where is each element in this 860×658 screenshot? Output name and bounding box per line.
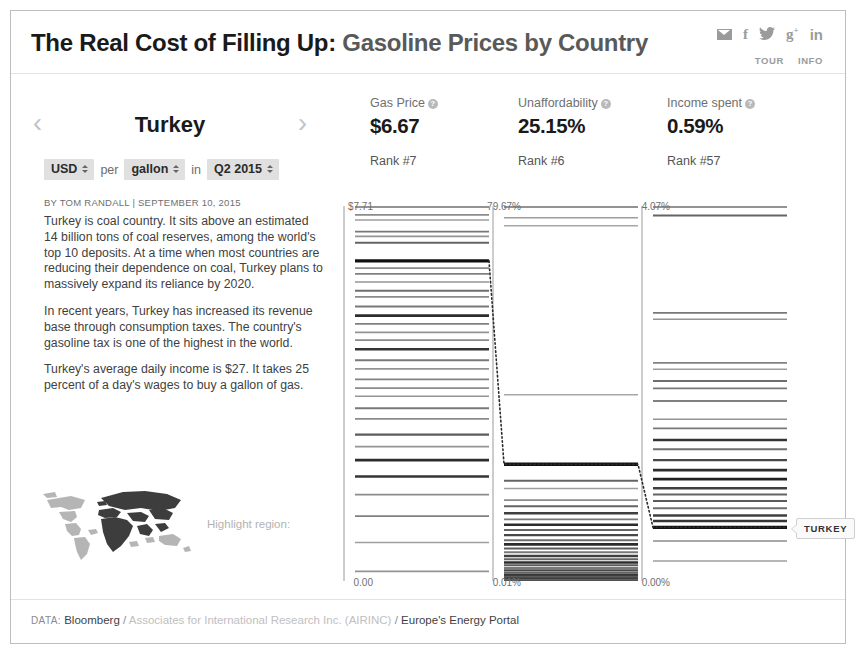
source-europes-energy-portal[interactable]: Europe's Energy Portal	[401, 614, 519, 626]
left-panel: ‹ Turkey › USD per gallon in Q2 2015 BY …	[11, 74, 329, 581]
world-map-icon	[41, 486, 201, 566]
page-title: The Real Cost of Filling Up: Gasoline Pr…	[31, 29, 648, 57]
page-title-main: The Real Cost of Filling Up:	[31, 29, 336, 56]
per-label: per	[100, 163, 118, 177]
axis-min-label: 0.00	[317, 577, 373, 588]
article-paragraph: In recent years, Turkey has increased it…	[44, 304, 324, 351]
data-sources: DATA: Bloomberg / Associates for Interna…	[31, 614, 519, 626]
period-select-value: Q2 2015	[214, 162, 262, 176]
chevron-updown-icon	[173, 165, 179, 173]
info-link[interactable]: INFO	[798, 55, 823, 66]
unit-select-value: gallon	[131, 162, 168, 176]
header-links: TOUR INFO	[755, 55, 823, 66]
axis-max-label: 4.07%	[614, 201, 670, 212]
unit-select[interactable]: gallon	[124, 159, 185, 180]
social-share-bar: f g+ in	[717, 26, 823, 42]
article-body: Turkey is coal country. It sits above an…	[44, 214, 324, 405]
twitter-icon[interactable]	[759, 27, 775, 42]
linkedin-icon[interactable]: in	[810, 27, 823, 42]
tour-link[interactable]: TOUR	[755, 55, 784, 66]
highlight-region-label: Highlight region:	[207, 518, 290, 530]
mail-icon[interactable]	[717, 27, 732, 42]
source-bloomberg[interactable]: Bloomberg	[64, 614, 120, 626]
footer: DATA: Bloomberg / Associates for Interna…	[11, 599, 845, 643]
axis-min-label: 0.00%	[614, 577, 670, 588]
currency-select[interactable]: USD	[44, 159, 94, 180]
charts-panel: Gas Price? $6.67 Rank #7 Unaffordability…	[329, 74, 845, 581]
region-map[interactable]: Highlight region:	[41, 486, 331, 566]
chevron-updown-icon	[82, 165, 88, 173]
page-title-sub: Gasoline Prices by Country	[336, 29, 648, 56]
parallel-ticks-plot	[329, 74, 845, 581]
source-separator: /	[123, 614, 126, 626]
currency-select-value: USD	[51, 162, 77, 176]
unit-selectors: USD per gallon in Q2 2015	[44, 159, 279, 180]
article-paragraph: Turkey's average daily income is $27. It…	[44, 362, 324, 394]
next-country-button[interactable]: ›	[298, 108, 307, 139]
axis-min-label: 0.01%	[465, 577, 521, 588]
country-name: Turkey	[11, 112, 329, 138]
source-separator: /	[395, 614, 398, 626]
period-select[interactable]: Q2 2015	[207, 159, 279, 180]
app-frame: The Real Cost of Filling Up: Gasoline Pr…	[10, 10, 846, 644]
data-label: DATA:	[31, 615, 61, 626]
highlight-tooltip: TURKEY	[796, 518, 855, 539]
in-label: in	[191, 163, 201, 177]
byline: BY TOM RANDALL | SEPTEMBER 10, 2015	[44, 197, 241, 208]
header: The Real Cost of Filling Up: Gasoline Pr…	[11, 11, 845, 74]
article-paragraph: Turkey is coal country. It sits above an…	[44, 214, 324, 293]
googleplus-icon[interactable]: g+	[786, 26, 799, 42]
source-airinc[interactable]: Associates for International Research In…	[129, 614, 392, 626]
axis-max-label: 79.67%	[465, 201, 521, 212]
axis-max-label: $7.71	[317, 201, 373, 212]
facebook-icon[interactable]: f	[743, 27, 748, 42]
country-nav: ‹ Turkey ›	[11, 112, 329, 142]
chevron-updown-icon	[267, 165, 273, 173]
